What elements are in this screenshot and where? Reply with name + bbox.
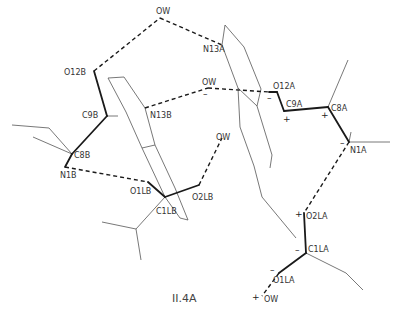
atom-label-n13b: N13B [150, 111, 172, 120]
hydrogen-bond [145, 88, 208, 108]
skeleton-bond [124, 77, 145, 108]
skeleton-bond [33, 137, 72, 154]
atom-label-n1a: N1A [350, 146, 367, 155]
skeleton-bond [262, 197, 296, 238]
hydrogen-bond [160, 18, 222, 45]
molecular-skeleton [12, 25, 390, 290]
figure-caption: II.4A [172, 292, 197, 305]
atom-label-ow-bot: OW [264, 295, 278, 304]
skeleton-bond [328, 60, 348, 107]
hydrogen-bond [304, 142, 349, 213]
atom-label-ow-mid: OW [202, 78, 216, 87]
skeleton-bond [270, 155, 272, 168]
atom-label-c1la: C1LA [308, 245, 329, 254]
skeleton-bond [225, 25, 244, 47]
hydrogen-bond-diagram: OWN13AO12BOWO12AC9AC8AC9BN13BN1AOWC8BN1B… [0, 0, 400, 317]
atom-label-c8a: C8A [331, 104, 348, 113]
hydrogen-bond [94, 18, 160, 71]
skeleton-bond [306, 253, 346, 273]
skeleton-bond [240, 127, 254, 166]
negative-charge-sign: – [270, 265, 275, 275]
atom-label-ow-right: OW [216, 133, 230, 142]
atom-label-o12a: O12A [273, 82, 295, 91]
highlighted-bond [279, 253, 306, 273]
atom-label-o2la: O2LA [306, 212, 328, 221]
atom-label-c1lb: C1LB [156, 207, 177, 216]
negative-charge-sign: – [295, 245, 300, 255]
positive-charge-sign: + [295, 209, 303, 219]
skeleton-bond [244, 47, 261, 89]
hydrogen-bond [65, 167, 148, 182]
atom-label-ow-top: OW [156, 7, 170, 16]
negative-charge-sign: – [203, 89, 208, 99]
highlighted-bond [277, 92, 284, 111]
skeleton-bond [254, 166, 262, 197]
positive-charge-sign: + [283, 114, 291, 124]
negative-charge-sign: – [267, 93, 272, 103]
skeleton-bond [12, 125, 49, 128]
skeleton-bond [257, 106, 272, 155]
atom-label-o1la: O1LA [273, 276, 295, 285]
atom-label-o2lb: O2LB [192, 193, 213, 202]
skeleton-bond [108, 78, 126, 112]
atom-label-c9b: C9B [82, 111, 98, 120]
highlighted-bond [94, 71, 107, 116]
atom-label-n13a: N13A [203, 45, 225, 54]
skeleton-bond [126, 112, 142, 148]
atom-label-c9a: C9A [286, 100, 303, 109]
atom-label-o1lb: O1LB [130, 187, 151, 196]
skeleton-bond [102, 222, 136, 229]
skeleton-bond [349, 132, 351, 142]
atom-labels: OWN13AO12BOWO12AC9AC8AC9BN13BN1AOWC8BN1B… [60, 7, 367, 304]
hydrogen-bonds [65, 18, 349, 296]
positive-charge-sign: + [252, 292, 260, 302]
hydrogen-bond [199, 138, 222, 185]
skeleton-bond [238, 88, 257, 106]
charge-signs: –++––+––+ [203, 89, 345, 302]
highlighted-bond [65, 154, 72, 167]
negative-charge-sign: – [340, 138, 345, 148]
skeleton-bond [180, 218, 188, 220]
positive-charge-sign: + [321, 110, 329, 120]
skeleton-bond [49, 128, 72, 154]
atom-label-n1b: N1B [60, 171, 77, 180]
skeleton-bond [238, 88, 240, 127]
skeleton-bond [222, 25, 225, 45]
skeleton-bond [136, 229, 141, 260]
highlighted-bond [72, 116, 107, 154]
highlighted-bonds [65, 71, 349, 273]
skeleton-bond [108, 77, 124, 78]
atom-label-c8b: C8B [74, 151, 90, 160]
skeleton-bond [142, 145, 155, 148]
atom-label-o12b: O12B [64, 68, 86, 77]
skeleton-bond [346, 273, 363, 290]
